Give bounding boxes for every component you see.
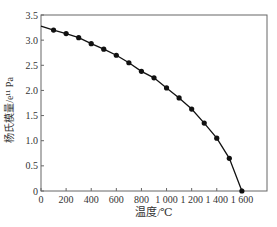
y-tick-label: 0 — [33, 186, 38, 197]
data-point — [239, 188, 244, 193]
x-tick-label: 1 200 — [180, 194, 203, 205]
plot-border — [41, 15, 267, 191]
data-point — [139, 69, 144, 74]
data-point — [227, 156, 232, 161]
data-point — [76, 35, 81, 40]
data-point — [151, 75, 156, 80]
y-tick-label: 0.5 — [26, 160, 39, 171]
data-point — [101, 47, 106, 52]
data-point — [214, 136, 219, 141]
data-point — [177, 95, 182, 100]
x-tick-label: 1 400 — [206, 194, 229, 205]
plot-frame — [41, 15, 267, 191]
data-point — [64, 31, 69, 36]
x-tick-label: 600 — [109, 194, 124, 205]
x-tick-label: 1 600 — [231, 194, 254, 205]
series-line — [41, 26, 242, 191]
data-point — [89, 41, 94, 46]
x-tick-label: 0 — [39, 194, 44, 205]
x-tick-label: 200 — [59, 194, 74, 205]
x-tick-label: 1 000 — [155, 194, 178, 205]
data-point — [189, 106, 194, 111]
x-tick-label: 400 — [84, 194, 99, 205]
x-tick-label: 800 — [134, 194, 149, 205]
data-point — [51, 27, 56, 32]
data-point — [114, 53, 119, 58]
y-tick-label: 3.5 — [26, 10, 39, 21]
data-point — [126, 60, 131, 65]
x-axis-label: 温度/℃ — [135, 205, 172, 218]
data-point — [202, 121, 207, 126]
y-tick-label: 2.5 — [26, 60, 39, 71]
y-tick-label: 1.0 — [26, 135, 39, 146]
y-tick-label: 2.0 — [26, 85, 39, 96]
data-point — [164, 85, 169, 90]
data-series — [41, 26, 244, 194]
chart: 00.51.01.52.02.53.03.5 02004006008001 00… — [0, 0, 277, 227]
y-tick-label: 1.5 — [26, 110, 39, 121]
y-tick-label: 3.0 — [26, 35, 39, 46]
y-axis-label: 杨氏模量/e¹¹ Pa — [3, 77, 15, 143]
